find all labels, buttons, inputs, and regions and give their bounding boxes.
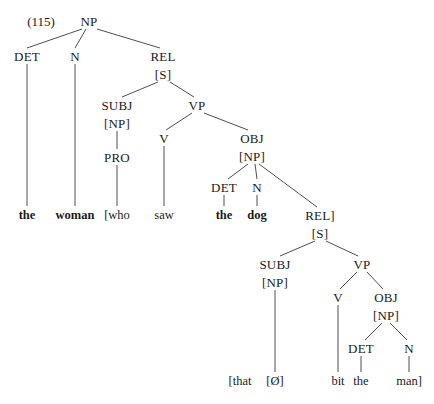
tree-node-subj1: SUBJ [101,99,132,112]
tree-node-np2: [NP] [104,117,130,130]
example-number: (115) [27,15,55,28]
tree-edge-vp1-to-obj1 [204,113,248,130]
tree-node-np5: [NP] [373,309,399,322]
tree-node-det1: DET [14,50,40,63]
tree-edge-np-root-to-det1 [27,29,82,48]
tree-leaf-leaf-dog: dog [247,209,266,222]
tree-edge-s1-to-vp1 [170,82,194,97]
tree-leaf-leaf-man: man] [396,375,422,388]
tree-edge-np3-to-rel2 [259,164,317,207]
tree-node-np3: [NP] [239,150,265,163]
tree-edge-np5-to-det3 [365,323,382,340]
tree-leaf-leaf-the-3: the [353,375,368,388]
tree-node-subj2: SUBJ [259,258,290,271]
tree-leaf-leaf-the-1: the [19,209,36,222]
tree-node-np-root: NP [80,15,97,28]
tree-node-v2: V [333,291,343,304]
tree-node-n2: N [252,181,262,194]
tree-edge-s2-to-vp2 [326,241,358,256]
tree-edge-np-root-to-rel1 [97,29,160,48]
tree-node-s1: [S] [155,68,172,81]
tree-node-np4: [NP] [262,276,288,289]
tree-node-det3: DET [348,342,374,355]
tree-leaf-leaf-who: [who [104,209,130,222]
tree-edge-np-root-to-n1 [75,29,86,48]
tree-edge-np3-to-det2 [228,164,248,179]
tree-node-rel1: REL [150,50,175,63]
tree-edge-np3-to-n2 [255,164,257,179]
tree-edge-s2-to-subj2 [280,241,315,256]
tree-node-vp2: VP [353,258,370,271]
tree-edge-vp2-to-v2 [340,272,357,289]
tree-leaf-leaf-bit: bit [331,375,344,388]
tree-node-obj2: OBJ [374,291,398,304]
syntax-tree-figure: (115) NPDETNREL[S]SUBJ[NP]PROVPVOBJ[NP]D… [0,0,434,404]
tree-leaf-leaf-woman: woman [56,209,95,222]
tree-edge-s1-to-subj1 [122,82,158,97]
tree-leaf-leaf-the-2: the [216,209,233,222]
tree-leaf-leaf-that: [that [229,375,252,388]
tree-node-obj1: OBJ [240,132,264,145]
tree-leaf-leaf-saw: saw [154,209,173,222]
tree-node-pro1: PRO [104,151,130,164]
tree-node-n1: N [70,50,80,63]
tree-node-s2: [S] [312,227,329,240]
tree-node-n3: N [404,342,414,355]
tree-node-rel2: REL] [305,209,335,222]
tree-node-det2: DET [211,181,237,194]
tree-edge-vp2-to-obj2 [367,272,383,289]
tree-edge-vp1-to-v1 [166,113,192,130]
tree-edge-np5-to-n3 [390,323,407,340]
tree-node-vp1: VP [188,99,205,112]
tree-leaf-leaf-zero: [Ø] [266,375,283,388]
tree-node-v1: V [159,132,169,145]
